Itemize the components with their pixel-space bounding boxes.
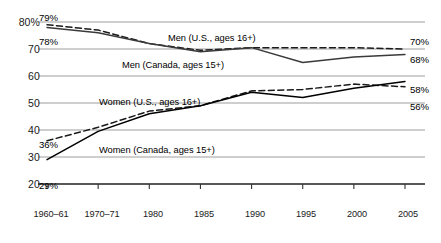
y-tick-20: 20 [8,178,40,190]
endpoint-men-canada-end: 68% [410,54,429,65]
endpoint-women-canada-start: 29% [39,180,58,191]
y-tick-30: 30 [8,151,40,163]
x-tick-2005: 2005 [380,209,436,219]
endpoint-women-canada-end: 58% [410,84,429,95]
x-tick-2000: 2000 [329,209,385,219]
y-tick-50: 50 [8,97,40,109]
x-axis-ticks [47,184,405,189]
x-tick-1990: 1990 [227,209,283,219]
x-tick-1970-71: 1970–71 [74,209,130,219]
figure-caption-partial [6,232,9,242]
x-tick-1985: 1985 [176,209,232,219]
endpoint-women-us-end: 56% [410,101,429,112]
endpoint-men-canada-start: 78% [39,36,58,47]
x-tick-1995: 1995 [278,209,334,219]
y-tick-80: 80% [8,16,40,28]
y-tick-40: 40 [8,124,40,136]
x-tick-1980: 1980 [125,209,181,219]
endpoint-women-us-start: 36% [39,139,58,150]
gridlines [38,22,425,184]
endpoint-men-us-start: 79% [39,12,58,23]
x-tick-1960-61: 1960–61 [23,209,79,219]
y-tick-60: 60 [8,70,40,82]
series-label-women-canada: Women (Canada, ages 15+) [99,145,215,155]
series-line [47,84,405,141]
series-label-men-us: Men (U.S., ages 16+) [168,33,256,43]
series-label-men-canada: Men (Canada, ages 15+) [122,60,224,70]
y-tick-70: 70 [8,43,40,55]
series-label-women-us: Women (U.S., ages 16+) [99,97,200,107]
endpoint-men-us-end: 70% [410,36,429,47]
series-lines [47,25,405,160]
line-chart: 80% 70 60 50 40 30 20 1960–61 1970–71 19… [0,0,441,243]
